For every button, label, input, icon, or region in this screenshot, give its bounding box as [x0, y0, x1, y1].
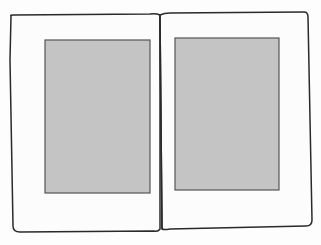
book-spread-diagram: [0, 0, 321, 245]
right-text-block: [175, 38, 279, 190]
left-text-block: [45, 40, 150, 193]
